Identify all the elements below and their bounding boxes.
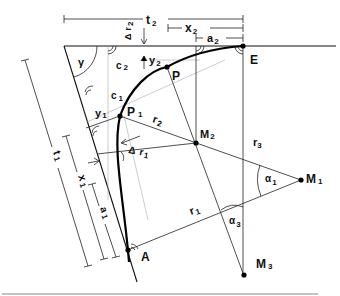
point-m1 [298, 177, 303, 182]
arrow-delta-r2 [141, 28, 147, 44]
svg-text:Δr2: Δr2 [123, 21, 135, 40]
label-alpha3: α3 [229, 215, 241, 229]
label-x1: x1 [75, 173, 91, 189]
point-a [125, 247, 130, 252]
label-delta-r2: Δr2 [123, 21, 135, 40]
label-delta-r1: Δr1 [127, 144, 150, 160]
label-a2: a2 [207, 32, 219, 46]
label-t2: t2 [146, 13, 157, 28]
label-c2: c2 [116, 60, 129, 72]
angle-alpha1-arc [258, 165, 261, 196]
right-angle-marks [85, 46, 243, 250]
svg-text:a1: a1 [97, 205, 112, 221]
point-m3 [241, 272, 246, 277]
label-p: P [172, 69, 180, 83]
point-p1 [117, 113, 122, 118]
label-t1: t1 [50, 149, 66, 163]
arrow-y2 [141, 56, 147, 69]
label-c1: c1 [111, 90, 124, 103]
label-a1: a1 [97, 205, 112, 221]
line-p1-m1 [120, 116, 301, 180]
svg-text:x1: x1 [75, 173, 91, 189]
label-p1: P1 [127, 105, 143, 119]
point-p [164, 64, 169, 69]
dimension-a1 [88, 183, 120, 258]
dimension-x2 [168, 24, 243, 32]
dimension-a2 [196, 34, 243, 42]
line-a-m1 [128, 180, 301, 250]
point-m2 [193, 140, 198, 145]
label-gamma: γ [78, 56, 85, 68]
point-e [240, 43, 245, 48]
construction-line-dr1 [124, 116, 148, 220]
label-y1: y1 [95, 107, 107, 120]
label-r1: r1 [188, 202, 202, 219]
compound-curve [117, 46, 243, 262]
label-m1: M1 [306, 172, 323, 186]
label-m3: M3 [256, 257, 273, 271]
svg-text:t1: t1 [50, 149, 66, 163]
label-r2: r2 [151, 112, 165, 128]
label-x2: x2 [185, 21, 198, 36]
label-m2: M2 [200, 128, 215, 141]
dimension-t1 [21, 59, 92, 267]
compound-curve-diagram: γ t2 x2 a2 Δr2 c2 y2 P E c1 y1 P1 r2 M2 … [0, 0, 340, 296]
label-r3: r3 [253, 136, 262, 150]
line-p-m3 [167, 67, 244, 276]
arrow-left-tangent [88, 158, 99, 165]
label-alpha1: α1 [265, 173, 277, 187]
label-a: A [141, 250, 150, 264]
label-e: E [250, 53, 258, 67]
label-y2: y2 [149, 54, 161, 68]
